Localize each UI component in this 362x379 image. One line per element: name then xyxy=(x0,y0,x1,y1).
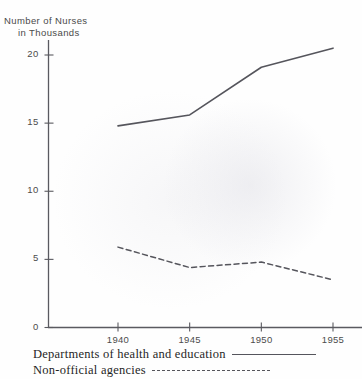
legend-sample-solid-line xyxy=(232,354,316,355)
legend-item-dashed: Non-official agencies xyxy=(33,363,353,379)
legend-sample-dashed-line xyxy=(152,370,270,371)
series-line-non-official-agencies xyxy=(118,247,333,280)
y-axis-tick-label: 20 xyxy=(17,48,39,59)
series-line-departments-health-education xyxy=(118,48,333,126)
data-series-layer xyxy=(118,48,333,280)
x-axis-tick-label: 1940 xyxy=(98,334,138,345)
legend-label-departments: Departments of health and education xyxy=(33,347,226,361)
y-axis-tick-label: 15 xyxy=(17,116,39,127)
y-axis-tick-label: 5 xyxy=(17,252,39,263)
chart-legend: Departments of health and education Non-… xyxy=(33,347,353,379)
legend-label-non-official: Non-official agencies xyxy=(33,363,146,377)
chart-plot-area xyxy=(0,0,362,379)
legend-item-solid: Departments of health and education xyxy=(33,347,353,363)
y-axis-tick-label: 0 xyxy=(17,321,39,332)
x-axis-tick-label: 1955 xyxy=(313,334,353,345)
x-axis-tick-label: 1950 xyxy=(241,334,281,345)
y-axis-tick-label: 10 xyxy=(17,184,39,195)
x-axis-tick-label: 1945 xyxy=(170,334,210,345)
